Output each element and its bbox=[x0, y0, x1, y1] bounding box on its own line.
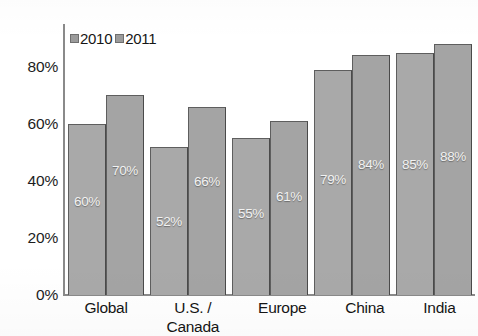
bar-global-2011[interactable]: 70% bbox=[106, 95, 144, 295]
bar-china-2010[interactable]: 79% bbox=[314, 70, 352, 295]
bar-value-label: 88% bbox=[435, 149, 471, 164]
bar-value-label: 85% bbox=[397, 157, 433, 172]
bar-value-label: 70% bbox=[107, 163, 143, 178]
x-axis-label-europe: Europe bbox=[258, 298, 306, 317]
bar-group-europe: 55%61% bbox=[232, 24, 308, 295]
bar-value-label: 55% bbox=[233, 206, 269, 221]
bar-group-india: 85%88% bbox=[396, 24, 472, 295]
x-axis-label-line: U.S. / bbox=[167, 298, 220, 317]
bar-uscanada-2010[interactable]: 52% bbox=[150, 147, 188, 295]
y-axis-tick-60: 60% bbox=[6, 115, 58, 133]
bar-value-label: 84% bbox=[353, 157, 389, 172]
x-axis-label-line: Europe bbox=[258, 298, 306, 317]
bar-group-china: 79%84% bbox=[314, 24, 390, 295]
x-axis-label-line: India bbox=[423, 298, 455, 317]
x-axis-label-uscanada: U.S. /Canada bbox=[167, 298, 220, 336]
bar-value-label: 61% bbox=[271, 189, 307, 204]
x-axis-label-global: Global bbox=[85, 298, 128, 317]
bar-value-label: 66% bbox=[189, 174, 225, 189]
bar-chart: 80%60%40%20%0% 20102011 60%70%52%66%55%6… bbox=[0, 0, 478, 336]
y-axis-tick-0: 0% bbox=[6, 286, 58, 304]
x-axis-label-china: China bbox=[345, 298, 384, 317]
bar-china-2011[interactable]: 84% bbox=[352, 55, 390, 295]
bar-value-label: 79% bbox=[315, 172, 351, 187]
bar-uscanada-2011[interactable]: 66% bbox=[188, 107, 226, 295]
bar-value-label: 52% bbox=[151, 214, 187, 229]
bar-india-2010[interactable]: 85% bbox=[396, 53, 434, 295]
x-axis-label-india: India bbox=[423, 298, 455, 317]
bar-europe-2011[interactable]: 61% bbox=[270, 121, 308, 295]
y-axis-tick-40: 40% bbox=[6, 172, 58, 190]
bar-group-global: 60%70% bbox=[68, 24, 144, 295]
bar-india-2011[interactable]: 88% bbox=[434, 44, 472, 295]
x-axis-label-line: Global bbox=[85, 298, 128, 317]
y-axis-tick-80: 80% bbox=[6, 58, 58, 76]
bar-europe-2010[interactable]: 55% bbox=[232, 138, 270, 295]
x-axis-label-line: Canada bbox=[167, 317, 220, 336]
x-axis-category-labels: GlobalU.S. /CanadaEuropeChinaIndia bbox=[65, 298, 475, 336]
y-axis-tick-labels: 80%60%40%20%0% bbox=[0, 0, 58, 296]
bar-global-2010[interactable]: 60% bbox=[68, 124, 106, 295]
bar-value-label: 60% bbox=[69, 194, 105, 209]
y-axis-tick-20: 20% bbox=[6, 229, 58, 247]
x-axis-label-line: China bbox=[345, 298, 384, 317]
bar-group-uscanada: 52%66% bbox=[150, 24, 226, 295]
bar-groups: 60%70%52%66%55%61%79%84%85%88% bbox=[65, 24, 475, 295]
